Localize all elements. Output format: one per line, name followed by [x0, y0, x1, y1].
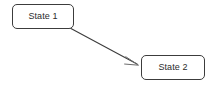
state-node-label: State 1 — [28, 12, 57, 21]
diagram-canvas: State 1 State 2 — [0, 0, 216, 89]
transition-arrowhead-icon — [124, 57, 138, 66]
state-node-state-2[interactable]: State 2 — [141, 55, 205, 80]
state-node-state-1[interactable]: State 1 — [12, 4, 74, 29]
transition-arrow-line — [70, 28, 137, 64]
state-node-label: State 2 — [158, 63, 187, 72]
